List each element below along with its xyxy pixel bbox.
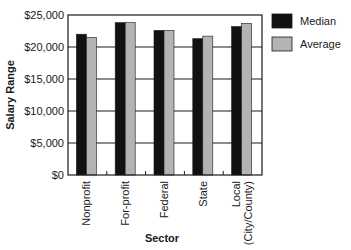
svg-text:Federal: Federal — [158, 181, 170, 218]
y-axis-title: Salary Range — [4, 60, 16, 130]
bars — [76, 23, 251, 175]
bar-average — [125, 23, 135, 175]
bar-average — [164, 30, 174, 175]
y-tick-label: $25,000 — [24, 9, 64, 21]
y-axis: $0$5,000$10,000$15,000$20,000$25,000 — [24, 9, 64, 181]
bar-median — [154, 30, 164, 175]
svg-text:State: State — [197, 181, 209, 207]
legend-label-average: Average — [300, 38, 341, 50]
x-tick-label: State — [197, 181, 209, 207]
bar-chart: $0$5,000$10,000$15,000$20,000$25,000 Non… — [0, 0, 351, 250]
x-axis-title: Sector — [145, 232, 180, 244]
svg-text:For-profit: For-profit — [119, 181, 131, 226]
bar-median — [115, 23, 125, 175]
legend-swatch-median — [272, 14, 292, 28]
bar-median — [76, 34, 86, 175]
legend-swatch-average — [272, 37, 292, 51]
y-tick-label: $10,000 — [24, 105, 64, 117]
bar-average — [86, 37, 96, 175]
x-tick-label: For-profit — [119, 181, 131, 226]
svg-text:(City/County): (City/County) — [242, 181, 254, 245]
legend-label-median: Median — [300, 15, 336, 27]
x-tick-label: Nonprofit — [80, 181, 92, 226]
bar-average — [242, 23, 252, 175]
y-tick-label: $15,000 — [24, 73, 64, 85]
legend: MedianAverage — [272, 14, 341, 51]
y-tick-label: $5,000 — [30, 137, 64, 149]
bar-average — [203, 36, 213, 175]
y-tick-label: $0 — [52, 169, 64, 181]
x-tick-label: Local(City/County) — [230, 181, 254, 245]
svg-text:Local: Local — [230, 181, 242, 207]
svg-text:Nonprofit: Nonprofit — [80, 181, 92, 226]
y-tick-label: $20,000 — [24, 41, 64, 53]
x-tick-label: Federal — [158, 181, 170, 218]
bar-median — [232, 27, 242, 175]
bar-median — [193, 39, 203, 175]
